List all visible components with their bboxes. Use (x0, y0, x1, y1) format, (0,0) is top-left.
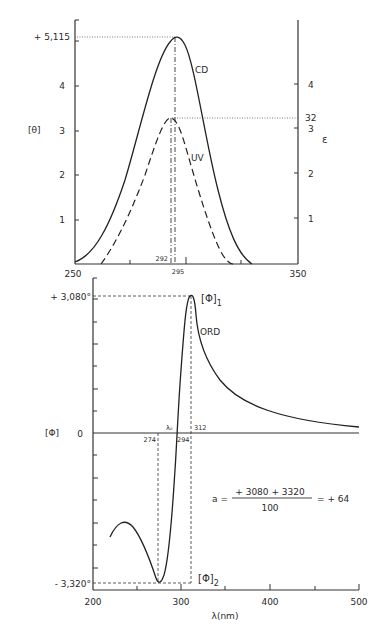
mark-292: 292 (156, 255, 168, 263)
top-x-tick-250: 250 (64, 269, 81, 279)
amplitude-formula: a = + 3080 + 3320 100 = + 64 (212, 487, 350, 513)
x-tick-300: 300 (172, 597, 189, 607)
top-x-tick-295: 295 (172, 268, 184, 276)
formula-denominator: 100 (261, 503, 278, 513)
mark-294: 294 (177, 436, 189, 444)
top-right-tick-4: 4 (308, 80, 314, 90)
x-tick-400: 400 (261, 597, 278, 607)
top-chart-cd-uv: [θ] ε + 5,115 4 3 2 1 32 4 3 2 1 CD UV 2… (28, 20, 327, 279)
top-right-tick-2: 2 (308, 169, 314, 179)
formula-numerator: + 3080 + 3320 (235, 487, 305, 497)
bottom-x-ticks (137, 584, 359, 590)
x-tick-500: 500 (350, 597, 367, 607)
peak-value-label: + 3,080° (50, 292, 91, 302)
top-left-tick-1: 1 (59, 215, 65, 225)
uv-peak-value: 32 (305, 113, 316, 123)
top-left-tick-3: 3 (59, 126, 65, 136)
lambda0-label: λ₀ (166, 424, 173, 432)
top-left-tick-2: 2 (59, 170, 65, 180)
bottom-y-label: [Φ] (45, 428, 59, 438)
formula-lhs: a = (212, 494, 228, 504)
cd-curve (75, 37, 252, 264)
cd-curve-label: CD (195, 65, 208, 75)
top-right-tick-3: 3 (308, 124, 314, 134)
phi2-label: [Φ]2 (198, 573, 219, 588)
phi1-label: [Φ]1 (201, 293, 222, 308)
x-tick-200: 200 (84, 597, 101, 607)
formula-result: = + 64 (317, 494, 350, 504)
trough-value-label: - 3,320° (55, 579, 91, 589)
top-left-tick-4: 4 (59, 81, 65, 91)
bottom-chart-ord: [Φ] 0 + 3,080° - 3,320° [Φ]1 [Φ]2 ORD λ₀… (45, 278, 368, 621)
top-y-left-label: [θ] (28, 125, 41, 135)
top-y-right-label: ε (322, 134, 327, 145)
x-axis-label: λ(nm) (212, 611, 239, 621)
ord-curve-label: ORD (200, 327, 220, 337)
top-right-tick-1: 1 (308, 214, 314, 224)
uv-curve-label: UV (191, 153, 205, 163)
spectra-figure: [θ] ε + 5,115 4 3 2 1 32 4 3 2 1 CD UV 2… (0, 0, 384, 630)
zero-tick-label: 0 (77, 429, 83, 439)
mark-274: 274 (144, 436, 156, 444)
mark-312: 312 (194, 424, 206, 432)
top-x-tick-350: 350 (289, 269, 306, 279)
cd-peak-value: + 5,115 (34, 32, 70, 42)
